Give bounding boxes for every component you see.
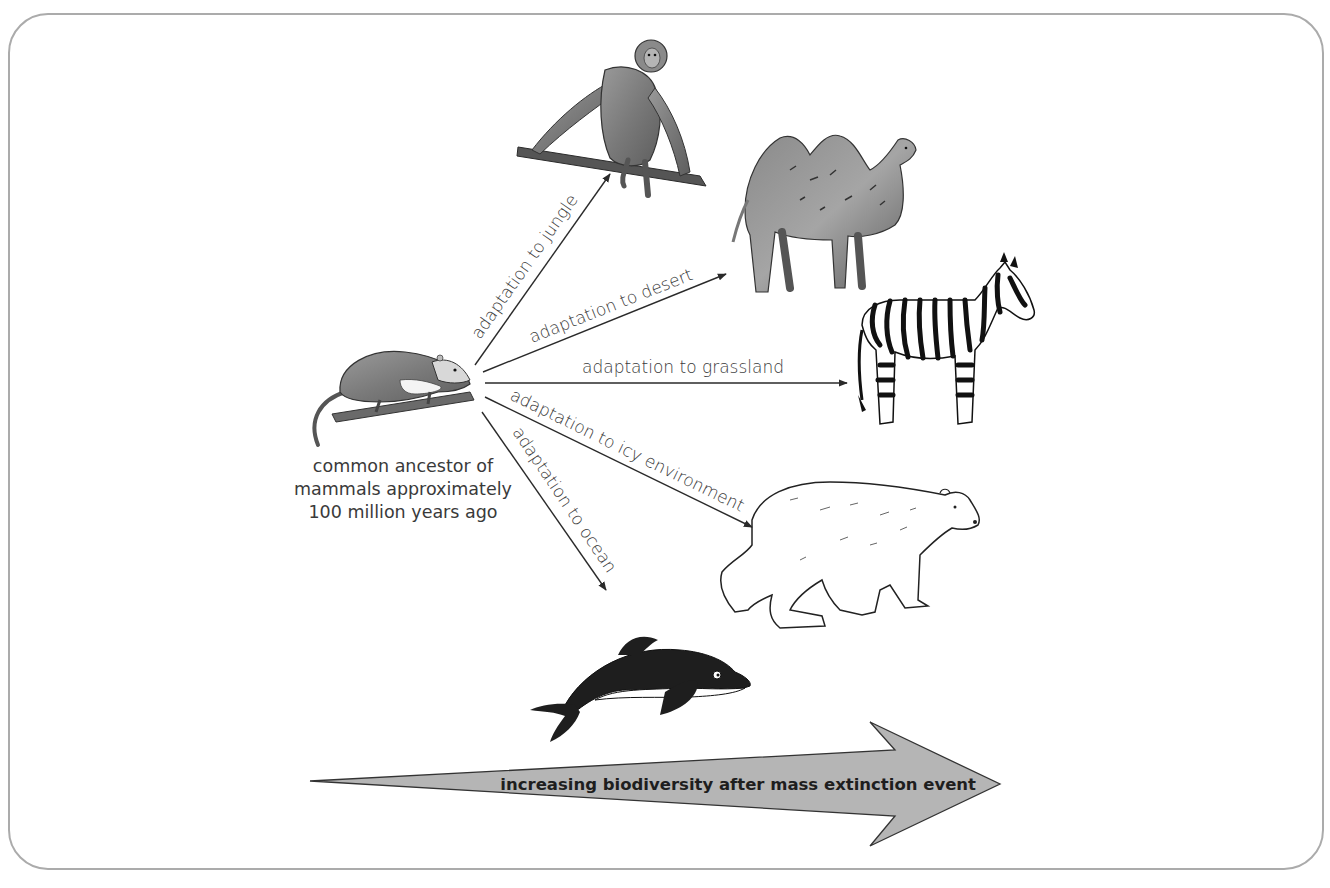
polar-bear-icon bbox=[721, 482, 979, 628]
arrow-icy bbox=[485, 397, 752, 527]
zebra-icon bbox=[858, 252, 1034, 424]
ancestor-caption: common ancestor of mammals approximately… bbox=[288, 455, 518, 524]
label-grassland: adaptation to grassland bbox=[582, 357, 784, 377]
biodiversity-arrow-label: increasing biodiversity after mass extin… bbox=[500, 775, 976, 794]
ancestor-caption-line-1: common ancestor of bbox=[288, 455, 518, 478]
ancestor-caption-line-2: mammals approximately bbox=[288, 478, 518, 501]
ancestor-icon bbox=[314, 351, 474, 445]
evolution-diagram: adaptation to jungle adaptation to deser… bbox=[0, 0, 1330, 888]
monkey-icon bbox=[517, 40, 706, 195]
dolphin-icon bbox=[530, 637, 750, 742]
camel-icon bbox=[733, 135, 916, 292]
ancestor-caption-line-3: 100 million years ago bbox=[288, 501, 518, 524]
label-desert: adaptation to desert bbox=[526, 264, 695, 346]
biodiversity-arrow: increasing biodiversity after mass extin… bbox=[310, 722, 1000, 846]
